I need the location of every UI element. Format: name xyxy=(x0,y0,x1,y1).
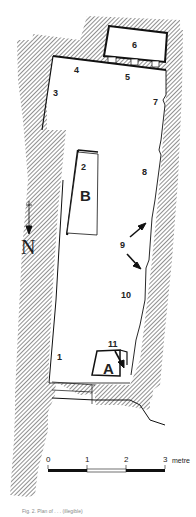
label-2: 2 xyxy=(81,163,86,172)
label-11: 11 xyxy=(108,340,118,349)
scale-bar xyxy=(48,465,165,472)
label-1: 1 xyxy=(57,353,62,362)
scale-tick-0: 0 xyxy=(46,456,50,464)
north-label: N xyxy=(21,237,35,257)
label-4: 4 xyxy=(74,66,79,75)
label-10: 10 xyxy=(121,291,131,300)
scale-tick-3: 3 xyxy=(163,456,167,464)
label-6: 6 xyxy=(132,41,137,50)
label-9: 9 xyxy=(120,241,125,250)
scale-tick-1: 1 xyxy=(85,456,89,464)
label-5: 5 xyxy=(125,73,130,82)
label-A: A xyxy=(103,361,114,376)
label-3: 3 xyxy=(53,89,58,98)
scale-tick-2: 2 xyxy=(124,456,128,464)
label-7: 7 xyxy=(153,98,158,107)
site-plan-drawing xyxy=(0,0,196,517)
figure-caption: Fig. 2. Plan of . . . (illegible) xyxy=(22,508,83,514)
label-B: B xyxy=(80,188,91,203)
scale-unit: metre xyxy=(172,457,190,464)
label-8: 8 xyxy=(142,168,147,177)
